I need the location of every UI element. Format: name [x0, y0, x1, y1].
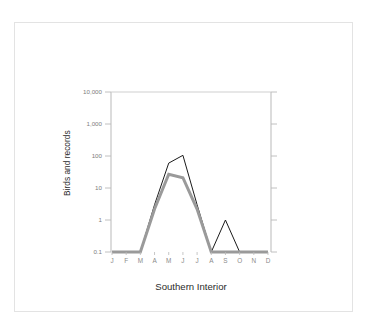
- series-line-birds: [112, 155, 268, 252]
- chart-title: Southern Interior: [155, 281, 227, 292]
- series-layer: [112, 155, 268, 252]
- y-axis-tick-labels: 10,000 1,000 100 10 1 0.1: [83, 88, 102, 255]
- x-tick-label-j-5: J: [181, 257, 184, 264]
- x-tick-label-s-8: S: [223, 257, 227, 264]
- x-tick-label-a-3: A: [152, 257, 157, 264]
- y-tick-label: 0.1: [93, 248, 102, 255]
- x-tick-label-j-6: J: [195, 257, 198, 264]
- x-tick-label-j-0: J: [110, 257, 113, 264]
- y-axis-ticks-left: [105, 92, 111, 252]
- x-axis-tick-labels: JFMAMJJASOND: [110, 257, 270, 264]
- x-tick-label-f-1: F: [124, 257, 128, 264]
- y-tick-label: 100: [92, 152, 103, 159]
- y-tick-label: 10: [95, 184, 102, 191]
- x-tick-label-m-4: M: [166, 257, 171, 264]
- x-tick-label-a-7: A: [209, 257, 214, 264]
- y-tick-label: 10,000: [83, 88, 102, 95]
- y-axis-ticks-right: [271, 92, 277, 252]
- y-axis-title: Birds and records: [62, 130, 72, 196]
- y-tick-label: 1: [99, 216, 103, 223]
- y-tick-label: 1,000: [87, 120, 103, 127]
- x-tick-label-o-9: O: [237, 257, 242, 264]
- x-tick-label-d-11: D: [266, 257, 271, 264]
- series-line-records: [112, 174, 268, 252]
- x-tick-label-m-2: M: [138, 257, 143, 264]
- x-tick-label-n-10: N: [252, 257, 257, 264]
